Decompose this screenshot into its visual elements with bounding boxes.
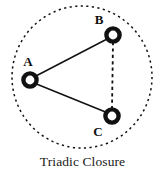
node-b-ring-icon	[106, 28, 119, 41]
node-c-ring-icon	[105, 109, 118, 122]
node-a-label: A	[23, 54, 33, 69]
node-c-label: C	[93, 124, 102, 139]
figure-caption: Triadic Closure	[0, 154, 165, 170]
node-a-ring-icon	[23, 73, 36, 86]
node-a	[23, 73, 36, 86]
node-b	[106, 28, 119, 41]
edge-a-c	[34, 83, 108, 113]
node-b-label: B	[95, 12, 104, 27]
edge-b-c	[112, 42, 113, 109]
graph-diagram: A B C	[0, 0, 165, 152]
edge-a-b	[34, 38, 109, 77]
node-c	[105, 109, 118, 122]
triadic-closure-figure: A B C Triadic Closure	[0, 0, 165, 178]
